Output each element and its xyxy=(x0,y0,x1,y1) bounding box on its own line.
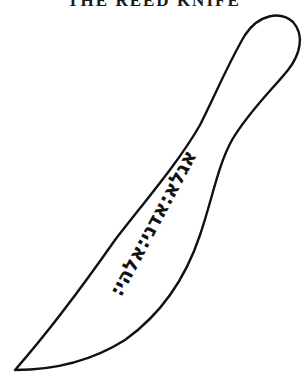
knife-illustration: אגלא:אדני:אלהי: xyxy=(0,0,308,384)
